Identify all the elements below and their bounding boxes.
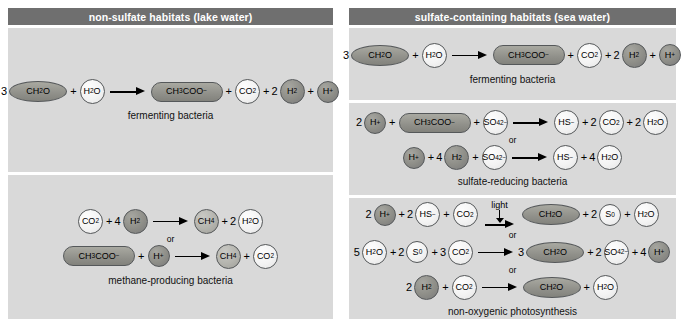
operator-plus: + — [583, 209, 589, 220]
operator-plus: + — [587, 247, 593, 258]
molecule-h2o: H2O — [597, 145, 622, 170]
molecule-h2o: H2O — [593, 275, 618, 300]
molecule-h2o: H2O — [80, 79, 105, 104]
stoichiometric-coefficient: 2 — [613, 50, 619, 61]
operator-plus: + — [399, 209, 405, 220]
operator-plus: + — [650, 50, 656, 61]
column-sulfate: sulfate-containing habitats (sea water)3… — [349, 8, 676, 319]
operator-plus: + — [632, 247, 638, 258]
operator-plus: + — [472, 152, 478, 163]
molecule-hs: HS− — [415, 202, 440, 227]
molecule-co2: CO2 — [235, 79, 260, 104]
molecule-h2: H2 — [622, 43, 647, 68]
stoichiometric-coefficient: 2 — [635, 117, 641, 128]
molecule-h: H+ — [403, 147, 425, 169]
light-annotated-arrow: light — [481, 200, 519, 230]
molecule-so42: SO42− — [483, 110, 508, 135]
molecule-ch2o: CH2O — [351, 45, 409, 66]
stoichiometric-coefficient: 3 — [343, 50, 349, 61]
operator-plus: + — [624, 209, 630, 220]
molecule-co2: CO2 — [453, 202, 478, 227]
molecule-h2o: H2O — [362, 240, 387, 265]
operator-plus: + — [431, 247, 437, 258]
molecule-hs: HS− — [554, 110, 579, 135]
operator-plus: + — [226, 86, 232, 97]
reaction-arrow-icon — [482, 282, 518, 292]
operator-plus: + — [627, 117, 633, 128]
operator-plus: + — [222, 216, 228, 227]
molecule-h2o: H2O — [634, 202, 659, 227]
equation-list: CO2+4H2CH4+2H2OorCH3COO−+H+CH4+CO2 — [8, 209, 333, 269]
molecule-h2: H2 — [444, 145, 469, 170]
molecule-h: H+ — [648, 241, 670, 263]
operator-plus: + — [412, 50, 418, 61]
panel-fermenting-sea: 3CH2O+H2OCH3COO−+CO2+2H2+H+fermenting ba… — [349, 28, 676, 100]
stoichiometric-coefficient: 3 — [518, 247, 524, 258]
equation-row: 3CH2O+H2OCH3COO−+CO2+2H2+H+ — [1, 79, 340, 104]
operator-plus: + — [106, 216, 112, 227]
operator-plus: + — [568, 50, 574, 61]
panel-stack-left: 3CH2O+H2OCH3COO−+CO2+2H2+H+fermenting ba… — [8, 28, 333, 319]
molecule-co2: CO2 — [577, 43, 602, 68]
operator-plus: + — [442, 282, 448, 293]
molecule-ch3coo: CH3COO− — [63, 246, 135, 266]
molecule-ch3coo: CH3COO− — [399, 113, 471, 133]
stoichiometric-coefficient: 2 — [406, 282, 412, 293]
molecule-s0: S0 — [406, 241, 428, 263]
molecule-ch3coo: CH3COO− — [151, 82, 223, 102]
equation-row: 2H++CH3COO−+SO42−HS−+2CO2+2H2O — [356, 110, 669, 135]
stoichiometric-coefficient: 4 — [436, 152, 442, 163]
equation-row: 2H2+CO2CH2O+H2O — [406, 275, 619, 300]
operator-plus: + — [138, 251, 144, 262]
molecule-h: H+ — [364, 112, 386, 134]
reaction-arrow-icon — [485, 220, 515, 230]
operator-plus: + — [244, 251, 250, 262]
equation-row: 5H2O+2S0+3CO23CH2O+2SO42−+4H+ — [354, 240, 672, 265]
reaction-arrow-icon — [512, 153, 548, 163]
equation-row: 3CH2O+H2OCH3COO−+CO2+2H2+H+ — [343, 43, 682, 68]
operator-plus: + — [474, 117, 480, 128]
operator-plus: + — [390, 247, 396, 258]
panel-caption: fermenting bacteria — [470, 74, 556, 85]
molecule-h2: H2 — [280, 79, 305, 104]
molecule-co2: CO2 — [599, 110, 624, 135]
molecule-h2o: H2O — [422, 43, 447, 68]
molecule-s0: S0 — [599, 204, 621, 226]
or-label: or — [167, 234, 175, 244]
stoichiometric-coefficient: 4 — [114, 216, 120, 227]
molecule-h2o: H2O — [238, 209, 263, 234]
molecule-h: H+ — [659, 44, 681, 66]
operator-plus: + — [443, 209, 449, 220]
molecule-co2: CO2 — [253, 244, 278, 269]
panel-sulfate-reducing: 2H++CH3COO−+SO42−HS−+2CO2+2H2OorH++4H2+S… — [349, 103, 676, 195]
operator-plus: + — [605, 50, 611, 61]
or-label: or — [509, 135, 517, 145]
equation-list: 2H++2HS−+CO2lightCH2O+2S0+H2Oor5H2O+2S0+… — [349, 200, 676, 300]
stoichiometric-coefficient: 3 — [1, 86, 7, 97]
stoichiometric-coefficient: 2 — [591, 209, 597, 220]
molecule-co2: CO2 — [452, 275, 477, 300]
equation-row: 2H++2HS−+CO2lightCH2O+2S0+H2O — [365, 200, 659, 230]
molecule-ch2o: CH2O — [9, 81, 67, 102]
panel-caption: non-oxygenic photosynthesis — [448, 306, 577, 317]
molecule-co2: CO2 — [448, 240, 473, 265]
light-down-arrow-icon — [499, 210, 501, 219]
molecule-h: H+ — [374, 204, 396, 226]
stoichiometric-coefficient: 2 — [271, 86, 277, 97]
stoichiometric-coefficient: 5 — [354, 247, 360, 258]
operator-plus: + — [428, 152, 434, 163]
header-right: sulfate-containing habitats (sea water) — [349, 8, 676, 25]
metabolic-pathways-figure: non-sulfate habitats (lake water)3CH2O+H… — [0, 0, 684, 327]
molecule-so42: SO42− — [482, 145, 507, 170]
molecule-ch2o: CH2O — [522, 204, 580, 225]
operator-plus: + — [308, 86, 314, 97]
reaction-arrow-icon — [452, 50, 488, 60]
stoichiometric-coefficient: 2 — [230, 216, 236, 227]
molecule-h2: H2 — [414, 275, 439, 300]
or-label: or — [509, 230, 517, 240]
molecule-h: H+ — [148, 245, 170, 267]
stoichiometric-coefficient: 3 — [440, 247, 446, 258]
stoichiometric-coefficient: 2 — [596, 247, 602, 258]
panel-fermenting-lake: 3CH2O+H2OCH3COO−+CO2+2H2+H+fermenting ba… — [8, 28, 333, 172]
molecule-ch2o: CH2O — [526, 242, 584, 263]
